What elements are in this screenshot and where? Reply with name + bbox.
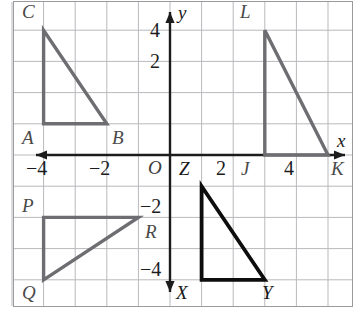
vertex-label-l: L — [240, 2, 251, 21]
x-tick-minus4: −4 — [26, 158, 47, 178]
x-tick-minus2: −2 — [89, 158, 110, 178]
x-tick-2: 2 — [216, 158, 226, 178]
coordinate-plane-figure: C A B L J K P Q R Z X Y y x O −4 −2 2 4 … — [0, 0, 360, 317]
y-tick-2: 2 — [150, 51, 160, 71]
vertex-label-r: R — [145, 222, 157, 241]
y-tick-minus2: −2 — [140, 196, 161, 216]
x-axis-label: x — [337, 131, 345, 150]
vertex-label-x: X — [176, 283, 188, 302]
origin-label: O — [148, 158, 162, 177]
vertex-label-z: Z — [179, 159, 190, 178]
y-tick-minus4: −4 — [140, 259, 161, 279]
x-tick-4: 4 — [284, 158, 294, 178]
vertex-label-k: K — [331, 159, 344, 178]
vertex-label-a: A — [22, 128, 34, 147]
vertex-label-q: Q — [22, 283, 36, 302]
vertex-label-c: C — [22, 2, 35, 21]
vertex-label-y: Y — [262, 283, 273, 302]
vertex-label-j: J — [241, 159, 249, 178]
y-tick-4: 4 — [150, 20, 160, 40]
vertex-label-p: P — [22, 196, 34, 215]
y-axis-label: y — [178, 3, 186, 22]
vertex-label-b: B — [112, 128, 124, 147]
